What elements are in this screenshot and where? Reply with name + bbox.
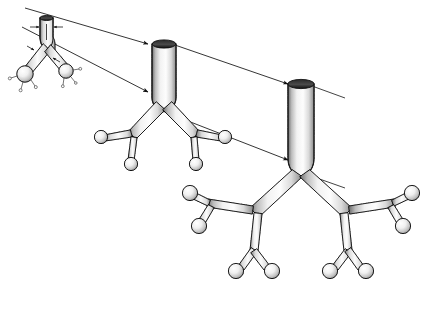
- tree-medium-bulb-3: [189, 157, 202, 170]
- tree-large-stem: [288, 84, 314, 178]
- tree-medium-bulb-4: [218, 130, 231, 143]
- tree-medium-bulb-2: [124, 157, 137, 170]
- tree-large-lumen: [288, 79, 314, 88]
- tree-large-bulb-5: [322, 263, 337, 278]
- figure-root: Branching airway tree at three successiv…: [0, 0, 431, 310]
- tree-medium-lumen: [152, 40, 176, 48]
- tree-medium-bulb-1: [94, 130, 107, 143]
- tree-large-bulb-1: [182, 185, 197, 200]
- tree-large-bulb-6: [358, 263, 373, 278]
- tree-small-lumen: [40, 16, 53, 21]
- tree-large-bulb-4: [264, 263, 279, 278]
- tree-large-bulb-2: [191, 218, 206, 233]
- tree-small-bulb-right: [59, 64, 73, 78]
- tree-large-bulb-8: [395, 218, 410, 233]
- tree-large-bulb-3: [228, 263, 243, 278]
- branching-tree-diagram: [0, 0, 431, 310]
- tree-large-bulb-7: [404, 185, 419, 200]
- tree-small-bulb-left: [17, 66, 33, 82]
